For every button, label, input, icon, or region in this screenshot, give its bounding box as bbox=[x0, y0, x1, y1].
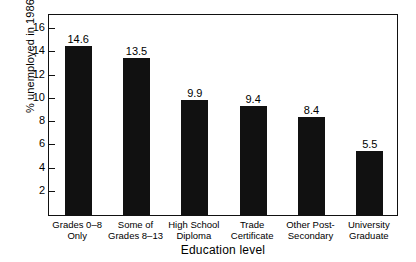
x-category-label-line: Grades 8–13 bbox=[106, 230, 164, 241]
x-category-label-line: Only bbox=[48, 230, 106, 241]
y-tick-mark bbox=[49, 121, 55, 122]
x-category-label: UniversityGraduate bbox=[340, 219, 398, 241]
x-category-label-line: Diploma bbox=[165, 230, 223, 241]
x-axis-title: Education level bbox=[48, 243, 398, 257]
x-category-label-line: Certificate bbox=[223, 230, 281, 241]
y-tick-mark bbox=[49, 168, 55, 169]
y-tick-label: 10 bbox=[21, 91, 45, 103]
plot-area: 246810121416 14.613.59.99.48.45.5 bbox=[48, 14, 398, 216]
y-tick-mark bbox=[49, 51, 55, 52]
x-category-label-line: Graduate bbox=[340, 230, 398, 241]
x-category-label-line: High School bbox=[165, 219, 223, 230]
y-tick-mark bbox=[49, 28, 55, 29]
y-tick-label: 2 bbox=[21, 184, 45, 196]
y-tick-label: 12 bbox=[21, 68, 45, 80]
bar-value-label: 13.5 bbox=[126, 45, 147, 57]
y-tick-mark bbox=[49, 98, 55, 99]
x-category-label: Some ofGrades 8–13 bbox=[106, 219, 164, 241]
bar-value-label: 14.6 bbox=[67, 33, 88, 45]
x-category-label-line: Grades 0–8 bbox=[48, 219, 106, 230]
y-tick-label: 4 bbox=[21, 161, 45, 173]
bar-slot: 14.6 bbox=[65, 33, 92, 215]
y-tick-label: 14 bbox=[21, 44, 45, 56]
x-category-label-line: Other Post- bbox=[281, 219, 339, 230]
bar bbox=[123, 58, 150, 215]
bar-chart: % unemployed in 1986 246810121416 14.613… bbox=[0, 0, 416, 262]
x-category-label-line: Some of bbox=[106, 219, 164, 230]
bar-value-label: 9.4 bbox=[246, 93, 261, 105]
x-category-label-line: Secondary bbox=[281, 230, 339, 241]
bar bbox=[240, 106, 267, 215]
y-tick-mark bbox=[49, 75, 55, 76]
bar-slot: 8.4 bbox=[298, 104, 325, 215]
x-category-label-line: University bbox=[340, 219, 398, 230]
x-category-label: Other Post-Secondary bbox=[281, 219, 339, 241]
bar-value-label: 8.4 bbox=[304, 104, 319, 116]
bar bbox=[65, 46, 92, 215]
bar-slot: 5.5 bbox=[356, 138, 383, 215]
x-category-label: Grades 0–8Only bbox=[48, 219, 106, 241]
y-tick-label: 6 bbox=[21, 137, 45, 149]
bar-slot: 13.5 bbox=[123, 45, 150, 215]
bar-value-label: 5.5 bbox=[362, 138, 377, 150]
x-category-label: High SchoolDiploma bbox=[165, 219, 223, 241]
y-tick-label: 16 bbox=[21, 21, 45, 33]
bar-slot: 9.4 bbox=[240, 93, 267, 215]
bar bbox=[181, 100, 208, 215]
y-tick-mark bbox=[49, 144, 55, 145]
x-category-label: TradeCertificate bbox=[223, 219, 281, 241]
bar bbox=[356, 151, 383, 215]
x-category-label-line: Trade bbox=[223, 219, 281, 230]
y-tick-mark bbox=[49, 191, 55, 192]
bar bbox=[298, 117, 325, 215]
y-tick-label: 8 bbox=[21, 114, 45, 126]
bar-value-label: 9.9 bbox=[187, 87, 202, 99]
bar-slot: 9.9 bbox=[181, 87, 208, 215]
